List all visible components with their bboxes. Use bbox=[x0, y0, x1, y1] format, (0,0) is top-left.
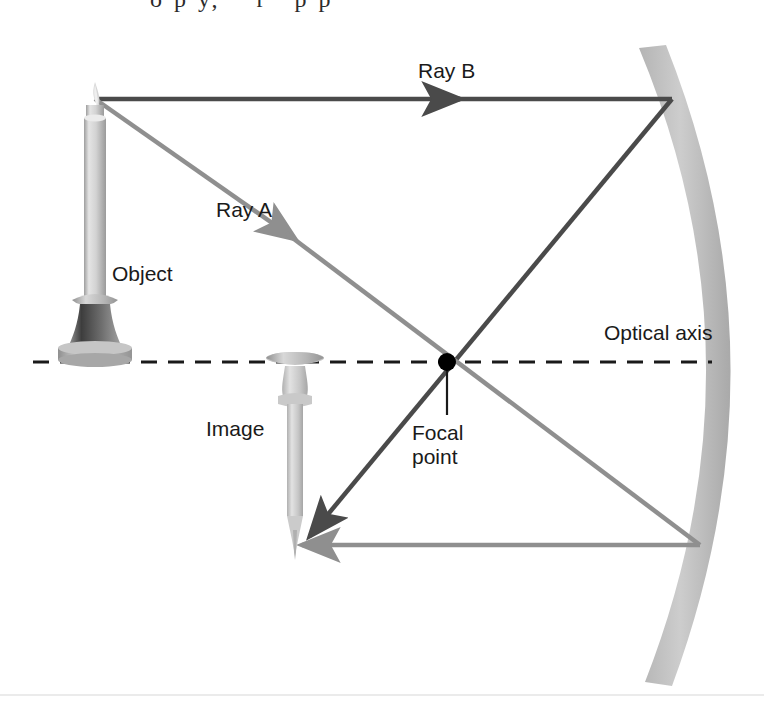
focal-point-label-line1: Focal bbox=[412, 421, 463, 445]
ray-diagram-figure: o p y, r p p bbox=[0, 0, 764, 704]
ray-a-label: Ray A bbox=[216, 198, 272, 222]
ray-b-path bbox=[95, 99, 672, 536]
image-label: Image bbox=[206, 417, 264, 441]
ray-diagram-canvas bbox=[0, 0, 764, 704]
bottom-divider bbox=[0, 694, 764, 696]
object-candle bbox=[58, 82, 132, 367]
focal-point-marker bbox=[438, 353, 456, 415]
ray-b-label: Ray B bbox=[418, 59, 475, 83]
object-label: Object bbox=[112, 262, 173, 286]
concave-mirror bbox=[639, 45, 731, 686]
focal-point-label-line2: point bbox=[412, 445, 458, 469]
optical-axis-label: Optical axis bbox=[604, 321, 713, 345]
